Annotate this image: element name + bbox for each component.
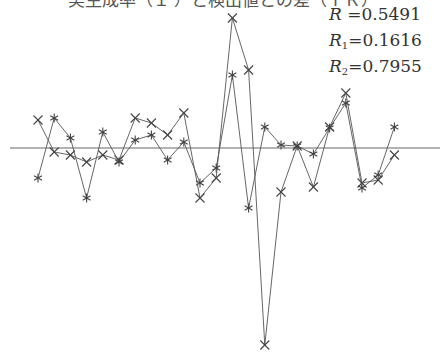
x-marker-point: [82, 158, 91, 167]
asterisk-marker-point: [390, 123, 398, 132]
x-marker-point: [390, 151, 399, 160]
series-asterisk-marker-line: [38, 75, 394, 208]
x-marker-point: [98, 151, 107, 160]
x-marker-point: [50, 148, 59, 157]
x-marker-point: [147, 119, 156, 128]
asterisk-marker-point: [147, 131, 155, 140]
x-marker-point: [179, 109, 188, 118]
asterisk-marker-point: [99, 128, 107, 137]
line-chart: [0, 0, 446, 358]
x-marker-point: [34, 116, 43, 125]
x-marker-point: [163, 131, 172, 140]
x-marker-point: [131, 114, 140, 123]
asterisk-marker-point: [83, 194, 91, 203]
asterisk-marker-point: [245, 204, 253, 213]
asterisk-marker-point: [34, 174, 42, 183]
x-marker-point: [341, 89, 350, 98]
x-marker-point: [66, 151, 75, 160]
asterisk-marker-point: [309, 150, 317, 159]
series-x-marker-line: [38, 18, 394, 345]
asterisk-marker-point: [358, 184, 366, 193]
asterisk-marker-point: [228, 71, 236, 80]
x-marker-point: [309, 183, 318, 192]
x-marker-point: [196, 194, 205, 203]
